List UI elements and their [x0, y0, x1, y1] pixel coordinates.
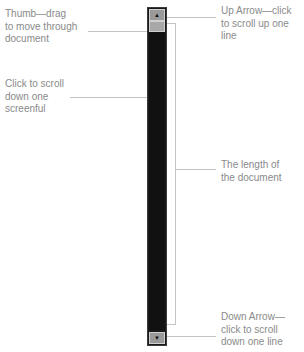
- down-arrow-callout-line-1: Down Arrow—: [221, 311, 285, 324]
- scroll-page-callout-line-3: screenful: [5, 103, 64, 116]
- up-arrow-callout-line-2: to scroll up one: [221, 18, 292, 31]
- doc-length-bracket-vertical: [175, 23, 176, 325]
- doc-length-bracket-bottom: [166, 324, 176, 325]
- up-arrow-leader-line: [166, 17, 216, 18]
- down-arrow-callout-line-3: down one line: [221, 336, 285, 349]
- scroll-track[interactable]: [149, 32, 165, 330]
- doc-length-callout-line-2: the document: [221, 172, 282, 185]
- doc-length-callout-line-1: The length of: [221, 159, 282, 172]
- thumb-callout-line-2: to move through: [5, 21, 77, 34]
- doc-length-callout: The length of the document: [221, 159, 282, 184]
- thumb-leader-line: [88, 31, 148, 32]
- scroll-page-callout: Click to scroll down one screenful: [5, 78, 64, 116]
- down-arrow-leader-line: [166, 336, 216, 337]
- scroll-thumb[interactable]: [149, 21, 165, 32]
- scroll-page-callout-line-2: down one: [5, 91, 64, 104]
- thumb-callout-line-1: Thumb—drag: [5, 8, 77, 21]
- up-arrow-icon: ▲: [154, 12, 160, 18]
- scroll-page-leader-line: [70, 97, 148, 98]
- thumb-callout-line-3: document: [5, 33, 77, 46]
- up-arrow-callout-line-3: line: [221, 30, 292, 43]
- down-arrow-callout: Down Arrow— click to scroll down one lin…: [221, 311, 285, 349]
- vertical-scrollbar[interactable]: ▲ ▼: [147, 7, 167, 346]
- scroll-up-button[interactable]: ▲: [149, 9, 165, 21]
- down-arrow-icon: ▼: [154, 335, 160, 341]
- scroll-page-callout-line-1: Click to scroll: [5, 78, 64, 91]
- up-arrow-callout-line-1: Up Arrow—click: [221, 5, 292, 18]
- up-arrow-callout: Up Arrow—click to scroll up one line: [221, 5, 292, 43]
- thumb-callout: Thumb—drag to move through document: [5, 8, 77, 46]
- scroll-down-button[interactable]: ▼: [149, 332, 165, 344]
- down-arrow-callout-line-2: click to scroll: [221, 324, 285, 337]
- doc-length-leader-line: [175, 169, 216, 170]
